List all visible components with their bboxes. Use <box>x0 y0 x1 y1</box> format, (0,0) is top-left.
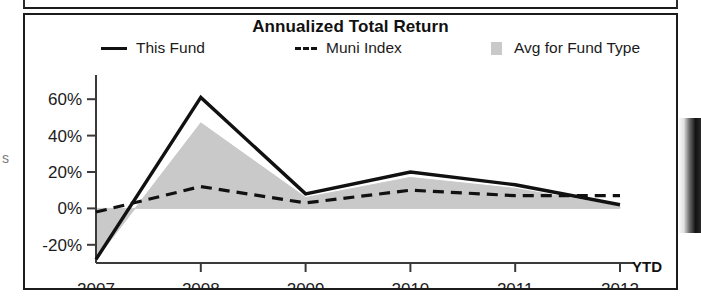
y-axis-tick-label: 20% <box>48 163 82 182</box>
x-axis-tick-label: 2010 <box>391 280 429 288</box>
page-box-above-chart <box>23 0 678 9</box>
plot-area: 60%40%20%0%-20%200720082009201020112012 <box>25 15 676 288</box>
x-axis-tick-label: 2012 <box>601 280 639 288</box>
x-axis-tick-label: 2008 <box>182 280 220 288</box>
scan-edge-shadow <box>683 118 701 233</box>
y-axis-tick-label: 0% <box>57 199 82 218</box>
y-axis-tick-label: 40% <box>48 127 82 146</box>
x-axis-tick-label: 2007 <box>77 280 115 288</box>
x-axis-tick-label: 2011 <box>497 280 534 288</box>
y-axis-tick-label: 60% <box>48 90 82 109</box>
y-axis-tick-label: -20% <box>42 236 82 255</box>
scanned-page: s Annualized Total Return This Fund Muni… <box>0 0 701 303</box>
chart-plot-svg: 60%40%20%0%-20%200720082009201020112012 <box>25 15 676 288</box>
x-axis-ytd-label: YTD <box>632 258 662 275</box>
page-margin-artifact: s <box>2 150 9 166</box>
annualized-total-return-chart: Annualized Total Return This Fund Muni I… <box>23 13 678 290</box>
x-axis-tick-label: 2009 <box>287 280 325 288</box>
